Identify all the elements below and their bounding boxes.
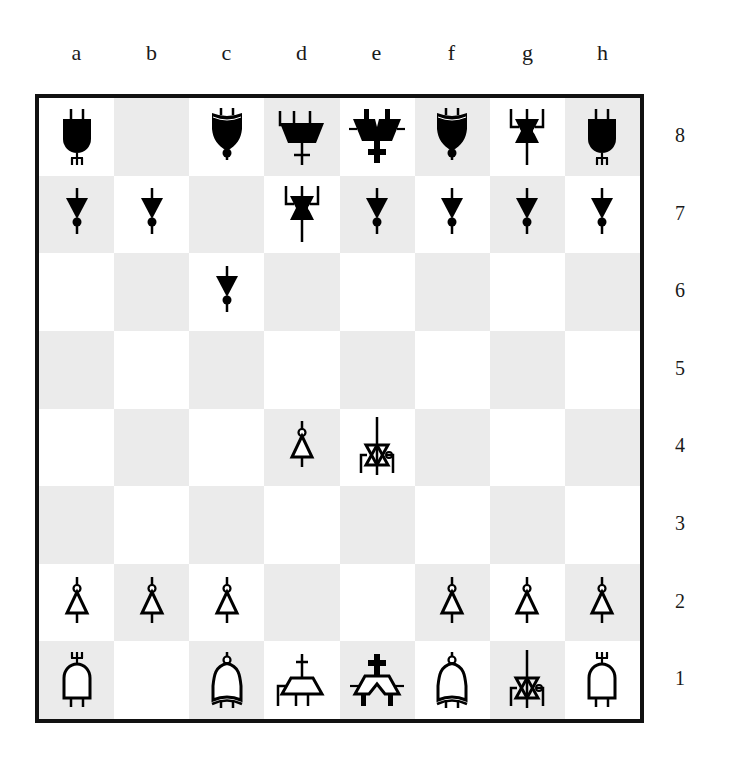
- black-knight-icon[interactable]: [497, 105, 557, 169]
- black-king-icon[interactable]: [347, 105, 407, 169]
- square-e4[interactable]: [340, 409, 415, 487]
- white-king-icon[interactable]: [347, 648, 407, 712]
- square-c7[interactable]: [189, 176, 264, 254]
- square-c3[interactable]: [189, 486, 264, 564]
- square-h6[interactable]: [565, 253, 640, 331]
- white-queen-icon[interactable]: [272, 648, 332, 712]
- square-f5[interactable]: [415, 331, 490, 409]
- square-e5[interactable]: [340, 331, 415, 409]
- square-h5[interactable]: [565, 331, 640, 409]
- square-a8[interactable]: [39, 98, 114, 176]
- square-e2[interactable]: [340, 564, 415, 642]
- square-f1[interactable]: [415, 641, 490, 719]
- white-rook-icon[interactable]: [47, 648, 107, 712]
- black-pawn-icon[interactable]: [572, 182, 632, 246]
- square-f2[interactable]: [415, 564, 490, 642]
- white-pawn-icon[interactable]: [272, 415, 332, 479]
- square-b1[interactable]: [114, 641, 189, 719]
- square-b8[interactable]: [114, 98, 189, 176]
- square-e1[interactable]: [340, 641, 415, 719]
- square-g3[interactable]: [490, 486, 565, 564]
- square-b2[interactable]: [114, 564, 189, 642]
- square-e3[interactable]: [340, 486, 415, 564]
- square-a5[interactable]: [39, 331, 114, 409]
- black-pawn-icon[interactable]: [47, 182, 107, 246]
- white-bishop-icon[interactable]: [197, 648, 257, 712]
- square-d3[interactable]: [264, 486, 339, 564]
- rank-labels: 8 7 6 5 4 3 2 1: [665, 97, 695, 718]
- black-queen-icon[interactable]: [272, 105, 332, 169]
- square-b5[interactable]: [114, 331, 189, 409]
- black-bishop-icon[interactable]: [422, 105, 482, 169]
- black-pawn-icon[interactable]: [497, 182, 557, 246]
- square-a4[interactable]: [39, 409, 114, 487]
- square-c8[interactable]: [189, 98, 264, 176]
- square-a3[interactable]: [39, 486, 114, 564]
- white-pawn-icon[interactable]: [197, 571, 257, 635]
- square-e6[interactable]: [340, 253, 415, 331]
- black-knight-icon[interactable]: [272, 182, 332, 246]
- white-rook-icon[interactable]: [572, 648, 632, 712]
- square-h7[interactable]: [565, 176, 640, 254]
- rank-label-5: 5: [665, 330, 695, 408]
- square-d4[interactable]: [264, 409, 339, 487]
- white-knight-icon[interactable]: [497, 648, 557, 712]
- square-g8[interactable]: [490, 98, 565, 176]
- black-pawn-icon[interactable]: [422, 182, 482, 246]
- file-label-f: f: [414, 40, 489, 66]
- black-pawn-icon[interactable]: [347, 182, 407, 246]
- square-c6[interactable]: [189, 253, 264, 331]
- square-g6[interactable]: [490, 253, 565, 331]
- square-c2[interactable]: [189, 564, 264, 642]
- square-a2[interactable]: [39, 564, 114, 642]
- square-a7[interactable]: [39, 176, 114, 254]
- black-pawn-icon[interactable]: [197, 260, 257, 324]
- square-d8[interactable]: [264, 98, 339, 176]
- white-knight-icon[interactable]: [347, 415, 407, 479]
- square-d6[interactable]: [264, 253, 339, 331]
- square-c4[interactable]: [189, 409, 264, 487]
- square-f8[interactable]: [415, 98, 490, 176]
- black-bishop-icon[interactable]: [197, 105, 257, 169]
- square-b4[interactable]: [114, 409, 189, 487]
- square-c1[interactable]: [189, 641, 264, 719]
- square-h1[interactable]: [565, 641, 640, 719]
- square-h3[interactable]: [565, 486, 640, 564]
- file-label-b: b: [114, 40, 189, 66]
- square-b6[interactable]: [114, 253, 189, 331]
- white-pawn-icon[interactable]: [572, 571, 632, 635]
- white-pawn-icon[interactable]: [422, 571, 482, 635]
- white-pawn-icon[interactable]: [47, 571, 107, 635]
- square-f7[interactable]: [415, 176, 490, 254]
- square-f4[interactable]: [415, 409, 490, 487]
- white-pawn-icon[interactable]: [497, 571, 557, 635]
- square-b7[interactable]: [114, 176, 189, 254]
- square-d1[interactable]: [264, 641, 339, 719]
- square-h8[interactable]: [565, 98, 640, 176]
- white-bishop-icon[interactable]: [422, 648, 482, 712]
- square-c5[interactable]: [189, 331, 264, 409]
- square-g4[interactable]: [490, 409, 565, 487]
- square-f3[interactable]: [415, 486, 490, 564]
- square-d5[interactable]: [264, 331, 339, 409]
- rank-label-7: 7: [665, 175, 695, 253]
- square-a6[interactable]: [39, 253, 114, 331]
- square-e8[interactable]: [340, 98, 415, 176]
- square-g2[interactable]: [490, 564, 565, 642]
- black-pawn-icon[interactable]: [122, 182, 182, 246]
- square-d7[interactable]: [264, 176, 339, 254]
- file-label-d: d: [264, 40, 339, 66]
- black-rook-icon[interactable]: [572, 105, 632, 169]
- square-g7[interactable]: [490, 176, 565, 254]
- white-pawn-icon[interactable]: [122, 571, 182, 635]
- square-d2[interactable]: [264, 564, 339, 642]
- square-g5[interactable]: [490, 331, 565, 409]
- square-e7[interactable]: [340, 176, 415, 254]
- square-h4[interactable]: [565, 409, 640, 487]
- square-g1[interactable]: [490, 641, 565, 719]
- black-rook-icon[interactable]: [47, 105, 107, 169]
- square-a1[interactable]: [39, 641, 114, 719]
- square-f6[interactable]: [415, 253, 490, 331]
- square-b3[interactable]: [114, 486, 189, 564]
- square-h2[interactable]: [565, 564, 640, 642]
